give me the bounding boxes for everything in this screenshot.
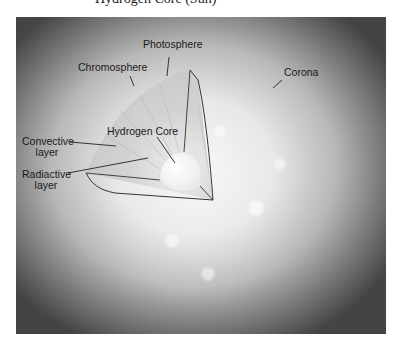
label-radiative-layer: Radiactive layer (22, 169, 70, 191)
label-convective-layer: Convective layer (22, 136, 72, 158)
label-photosphere: Photosphere (143, 39, 203, 50)
label-hydrogen-core: Hydrogen Core (107, 126, 178, 137)
label-chromosphere: Chromosphere (78, 62, 147, 73)
label-radiative-line2: layer (22, 180, 70, 191)
label-corona: Corona (284, 67, 318, 78)
label-convective-line2: layer (22, 147, 72, 158)
